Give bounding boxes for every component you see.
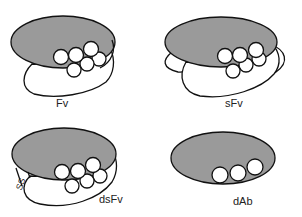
- dab-fragment: [171, 132, 275, 184]
- label-dab: dAb: [233, 196, 253, 207]
- label-sfv: sFv: [225, 98, 243, 109]
- label-dsfv: dsFv: [99, 194, 123, 205]
- sfv-fragment: [165, 17, 285, 97]
- fv-fragment: [11, 16, 115, 96]
- antibody-fragment-diagram: [0, 0, 302, 217]
- label-fv: Fv: [56, 98, 68, 109]
